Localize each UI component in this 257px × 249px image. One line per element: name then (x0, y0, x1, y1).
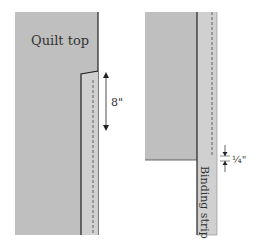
measure-label: 8" (111, 96, 123, 109)
binding-strip-label: Binding strip (198, 166, 211, 239)
quilt-top-label: Quilt top (31, 33, 89, 48)
left-panel: Quilt top 8" (15, 12, 123, 235)
right-panel: Binding strip ¼" (145, 12, 246, 239)
binding-diagram: Quilt top 8" Binding strip ¼" (0, 0, 257, 249)
binding-strip-left (81, 72, 98, 235)
quilt-top-right (145, 12, 197, 160)
seam-allowance-label: ¼" (232, 154, 246, 165)
